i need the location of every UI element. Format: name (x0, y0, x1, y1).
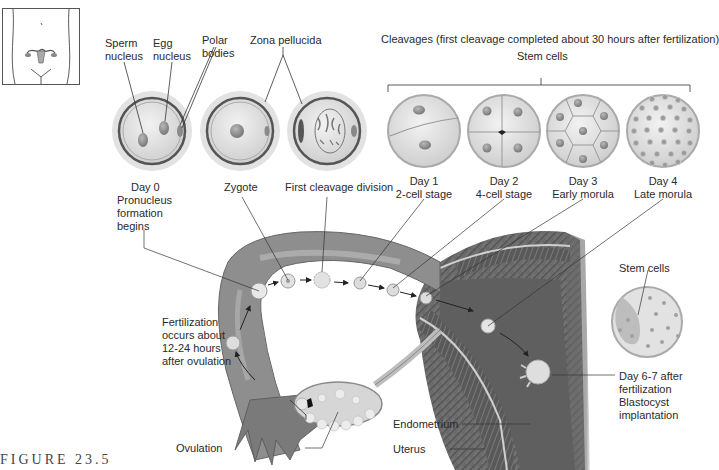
stage-label-day1: Day 12-cell stage (387, 175, 461, 201)
figure-caption: FIGURE 23.5 (0, 452, 112, 468)
day2-4cell (468, 95, 540, 167)
ovulation-label: Ovulation (176, 442, 222, 455)
stage-label-first-cleavage: First cleavage division (285, 181, 393, 194)
day1-2cell (388, 95, 460, 167)
zona-pellucida-label: Zona pellucida (250, 34, 322, 47)
sperm-nucleus-label: Spermnucleus (105, 37, 143, 63)
stage-label-day0: Day 0 Pronucleus formation begins (117, 181, 173, 233)
stage-label-day3: Day 3Early morula (546, 175, 620, 201)
egg-nucleus-label: Eggnucleus (153, 37, 191, 63)
cleavages-title: Cleavages (first cleavage completed abou… (381, 33, 719, 46)
stem-cells-header-label: Stem cells (517, 50, 568, 63)
implantation-label: Day 6-7 after fertilization Blastocyst i… (619, 370, 683, 422)
day0-oocyte (112, 91, 192, 171)
stage-label-zygote: Zygote (224, 181, 258, 194)
blastocyst-inset (612, 270, 682, 357)
endometrium-label: Endometrium (393, 418, 458, 431)
first-cleavage-cell (287, 91, 367, 171)
blastocyst-stem-cells-label: Stem cells (619, 262, 670, 275)
stage-label-day2: Day 24-cell stage (467, 175, 541, 201)
day4-late-morula (627, 94, 699, 167)
zygote-cell (200, 91, 280, 171)
uterus-label: Uterus (393, 443, 425, 456)
day3-early-morula (547, 95, 619, 167)
stage-label-day4: Day 4Late morula (626, 175, 700, 201)
fertilization-label: Fertilization occurs about 12-24 hours a… (162, 316, 231, 368)
polar-bodies-label: Polarbodies (202, 34, 234, 60)
